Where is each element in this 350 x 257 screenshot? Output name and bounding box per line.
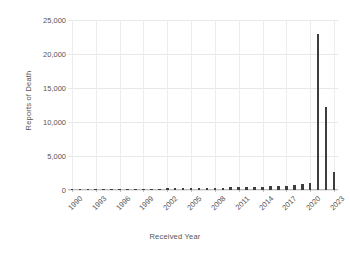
- gridline-vertical: [143, 20, 144, 190]
- y-tick-label: 0: [4, 186, 66, 195]
- x-tick-mark: [310, 190, 311, 192]
- x-tick-label: 2011: [233, 194, 251, 212]
- gridline-vertical: [96, 20, 97, 190]
- plot-area: [68, 20, 338, 190]
- x-tick-label: 2005: [185, 194, 203, 212]
- x-axis-title-text: Received Year: [150, 232, 201, 241]
- y-tick-label: 15,000: [4, 84, 66, 93]
- gridline-horizontal: [68, 20, 338, 21]
- x-tick-label: 2014: [257, 194, 275, 212]
- bar: [309, 183, 312, 190]
- gridline-horizontal: [68, 54, 338, 55]
- gridline-vertical: [263, 20, 264, 190]
- gridline-vertical: [310, 20, 311, 190]
- x-tick-label: 2008: [209, 194, 227, 212]
- gridline-horizontal: [68, 88, 338, 89]
- x-tick-label: 1999: [138, 194, 156, 212]
- gridline-vertical: [167, 20, 168, 190]
- gridline-horizontal: [68, 156, 338, 157]
- x-tick-mark: [215, 190, 216, 192]
- x-axis-title: Received Year: [0, 232, 350, 241]
- x-tick-label: 2002: [161, 194, 179, 212]
- bar: [325, 107, 328, 190]
- x-tick-mark: [143, 190, 144, 192]
- chart-figure: Reports of Death 05,00010,00015,00020,00…: [0, 0, 350, 257]
- x-tick-mark: [239, 190, 240, 192]
- x-tick-label: 1990: [66, 194, 84, 212]
- x-tick-mark: [72, 190, 73, 192]
- x-tick-mark: [167, 190, 168, 192]
- x-tick-mark: [263, 190, 264, 192]
- gridline-vertical: [120, 20, 121, 190]
- x-tick-label: 1996: [114, 194, 132, 212]
- x-tick-mark: [286, 190, 287, 192]
- bar: [333, 172, 336, 190]
- y-tick-label: 20,000: [4, 50, 66, 59]
- x-tick-label: 2023: [328, 194, 346, 212]
- gridline-horizontal: [68, 122, 338, 123]
- gridline-vertical: [239, 20, 240, 190]
- y-tick-label: 10,000: [4, 118, 66, 127]
- x-tick-mark: [334, 190, 335, 192]
- y-tick-label: 25,000: [4, 16, 66, 25]
- gridline-vertical: [286, 20, 287, 190]
- x-tick-mark: [96, 190, 97, 192]
- x-tick-label: 2020: [304, 194, 322, 212]
- y-tick-label: 5,000: [4, 152, 66, 161]
- gridline-vertical: [72, 20, 73, 190]
- gridline-vertical: [334, 20, 335, 190]
- gridline-vertical: [191, 20, 192, 190]
- x-tick-label: 1993: [90, 194, 108, 212]
- gridline-vertical: [215, 20, 216, 190]
- x-tick-label: 2017: [281, 194, 299, 212]
- bar: [317, 34, 320, 190]
- y-axis-ticks: 05,00010,00015,00020,00025,000: [0, 20, 66, 190]
- x-tick-mark: [120, 190, 121, 192]
- x-tick-mark: [191, 190, 192, 192]
- x-axis-ticks: 1990199319961999200220052008201120142017…: [68, 190, 338, 230]
